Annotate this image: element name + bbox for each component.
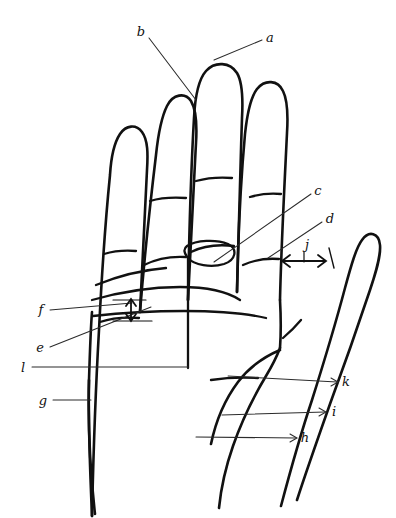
label-d: d xyxy=(326,211,334,226)
label-g: g xyxy=(39,393,47,408)
figure-background xyxy=(0,0,396,518)
label-e: e xyxy=(36,340,44,355)
label-l: l xyxy=(21,360,25,375)
label-c: c xyxy=(314,183,322,198)
hand-diagram-svg: a b c d e f g h i j k l xyxy=(0,0,396,518)
figure-canvas: a b c d e f g h i j k l xyxy=(0,0,396,518)
label-b: b xyxy=(137,24,145,39)
label-i: i xyxy=(332,404,336,419)
label-h: h xyxy=(301,430,309,445)
label-k: k xyxy=(342,374,350,389)
label-a: a xyxy=(266,30,274,45)
palm-right-edge xyxy=(280,300,281,348)
